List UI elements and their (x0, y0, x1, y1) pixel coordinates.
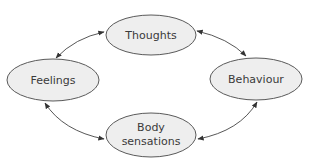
node-thoughts: Thoughts (106, 15, 196, 55)
arrow-thoughts-feelings (56, 32, 104, 58)
arrow-behaviour-body-sensations (198, 102, 257, 139)
node-body-sensations-label-line2: sensations (122, 135, 181, 148)
arrow-thoughts-behaviour (197, 31, 246, 56)
cbt-cycle-diagram: Thoughts Feelings Behaviour Body sensati… (0, 0, 313, 168)
arrow-feelings-body-sensations (45, 103, 104, 139)
node-body-sensations: Body sensations (106, 113, 196, 157)
node-behaviour-label: Behaviour (228, 73, 284, 86)
node-body-sensations-label-line1: Body (137, 121, 165, 134)
node-feelings: Feelings (7, 59, 99, 101)
node-behaviour: Behaviour (210, 58, 302, 100)
node-feelings-label: Feelings (30, 74, 75, 87)
node-thoughts-label: Thoughts (124, 29, 177, 42)
